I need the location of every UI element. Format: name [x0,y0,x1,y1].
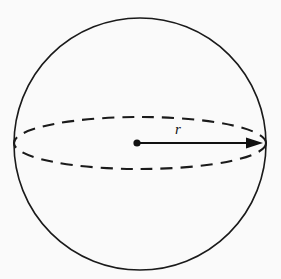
sphere-diagram: r [0,0,281,279]
sphere-diagram-canvas: r [0,0,281,279]
sphere-center-dot [133,139,140,146]
radius-arrowhead-icon [246,138,263,149]
radius-label: r [175,121,181,137]
